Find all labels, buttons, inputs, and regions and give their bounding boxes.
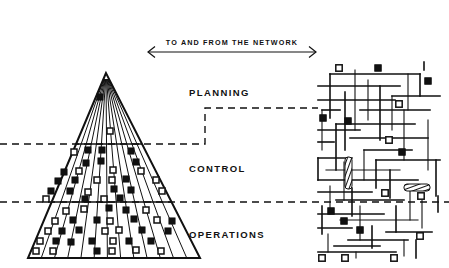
filled-square-node: [128, 148, 134, 154]
hollow-square-node: [43, 196, 49, 202]
filled-square-node: [128, 187, 134, 193]
filled-square-node: [111, 186, 117, 192]
filled-square-node: [94, 217, 100, 223]
filled-square-node: [169, 218, 175, 224]
filled-square-node: [148, 238, 154, 244]
filled-square-node: [76, 227, 82, 233]
hollow-square-node: [109, 177, 115, 183]
hollow-square-node: [158, 248, 164, 254]
hollow-square-node: [45, 228, 51, 234]
filled-square-node: [59, 228, 65, 234]
hollow-square-node: [382, 190, 388, 196]
hollow-square-node: [102, 228, 108, 234]
tier-label-planning: PLANNING: [189, 87, 250, 98]
filled-square-node: [345, 118, 352, 125]
hollow-square-node: [319, 255, 325, 261]
hollow-square-node: [386, 137, 392, 143]
filled-square-node: [68, 239, 74, 245]
hollow-square-node: [107, 128, 113, 134]
filled-square-node: [126, 238, 132, 244]
filled-square-node: [94, 248, 100, 254]
hollow-square-node: [94, 177, 100, 183]
filled-square-node: [106, 205, 112, 211]
hollow-square-node: [159, 188, 165, 194]
hollow-square-node: [417, 233, 423, 239]
hollow-square-node: [138, 168, 144, 174]
filled-square-node: [320, 115, 327, 122]
hollow-square-node: [33, 248, 39, 254]
filled-square-node: [48, 188, 54, 194]
filled-square-node: [82, 196, 88, 202]
hollow-square-node: [391, 255, 397, 261]
network-coil-element: [345, 157, 352, 189]
network-coil-element: [404, 184, 430, 191]
filled-square-node: [55, 178, 61, 184]
hollow-square-node: [154, 217, 160, 223]
filled-square-node: [399, 149, 406, 156]
filled-square-node: [375, 65, 382, 72]
filled-square-node: [61, 169, 67, 175]
filled-square-node: [70, 217, 76, 223]
hollow-square-node: [50, 248, 56, 254]
hollow-square-node: [153, 177, 159, 183]
hollow-square-node: [110, 167, 116, 173]
filled-square-node: [117, 195, 123, 201]
hollow-square-node: [71, 149, 77, 155]
hollow-square-node: [107, 218, 113, 224]
hollow-square-node: [418, 193, 424, 199]
hollow-square-node: [76, 168, 82, 174]
filled-square-node: [139, 227, 145, 233]
hollow-square-node: [143, 207, 149, 213]
filled-square-node: [341, 218, 348, 225]
filled-square-node: [123, 207, 129, 213]
filled-square-node: [67, 188, 73, 194]
filled-square-node: [97, 94, 103, 100]
hollow-square-node: [85, 189, 91, 195]
banner-label: TO AND FROM THE NETWORK: [166, 38, 298, 47]
hollow-square-node: [52, 218, 58, 224]
hollow-square-node: [133, 247, 139, 253]
tier-label-control: CONTROL: [189, 163, 246, 174]
filled-square-node: [131, 216, 137, 222]
hollow-square-node: [110, 238, 116, 244]
filled-square-node: [123, 176, 129, 182]
filled-square-node: [85, 147, 91, 153]
hollow-square-node: [109, 248, 115, 254]
hollow-square-node: [81, 206, 87, 212]
filled-square-node: [425, 78, 432, 85]
hollow-square-node: [342, 255, 348, 261]
hollow-square-node: [63, 208, 69, 214]
filled-square-node: [165, 228, 171, 234]
filled-square-node: [98, 158, 104, 164]
filled-square-node: [328, 208, 335, 215]
hollow-square-node: [396, 101, 402, 107]
hollow-square-node: [116, 227, 122, 233]
filled-square-node: [83, 160, 89, 166]
hollow-square-node: [101, 196, 107, 202]
tier-label-operations: OPERATIONS: [189, 229, 265, 240]
filled-square-node: [72, 177, 78, 183]
filled-square-node: [89, 238, 95, 244]
network-hierarchy-diagram: TO AND FROM THE NETWORK PLANNINGCONTROLO…: [0, 0, 449, 268]
diagram-canvas: TO AND FROM THE NETWORK PLANNINGCONTROLO…: [0, 0, 449, 268]
filled-square-node: [357, 227, 364, 234]
filled-square-node: [133, 159, 139, 165]
filled-square-node: [99, 147, 105, 153]
hollow-square-node: [336, 65, 342, 71]
filled-square-node: [53, 238, 59, 244]
hollow-square-node: [37, 238, 43, 244]
